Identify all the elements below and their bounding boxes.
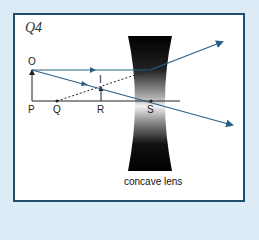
point-s-label: S: [147, 104, 154, 115]
point-r-label: R: [97, 104, 104, 115]
point-p-label: P: [28, 104, 35, 115]
point-q-label: Q: [53, 104, 61, 115]
point-o-label: O: [28, 56, 36, 67]
point-i-label: I: [99, 74, 102, 85]
lens-caption: concave lens: [124, 176, 182, 187]
